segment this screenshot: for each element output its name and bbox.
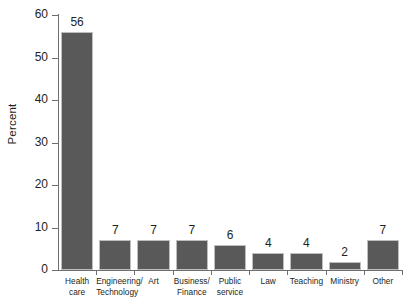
y-axis-tick	[52, 270, 58, 271]
bar-value-label: 7	[364, 223, 402, 237]
bar-value-label: 6	[211, 228, 249, 242]
bar-value-label: 7	[134, 223, 172, 237]
x-axis-tick	[211, 270, 212, 275]
bar[interactable]	[290, 253, 322, 270]
bar-value-label: 7	[173, 223, 211, 237]
bar-slot: 56	[58, 15, 96, 270]
x-axis-tick	[364, 270, 365, 275]
x-axis-tick	[287, 270, 288, 275]
bar[interactable]	[329, 262, 361, 271]
x-axis-tick	[96, 270, 97, 275]
x-axis-line	[58, 270, 402, 271]
bar-slot: 7	[134, 15, 172, 270]
bar-slot: 6	[211, 15, 249, 270]
bar-slot: 7	[364, 15, 402, 270]
bar-value-label: 7	[96, 223, 134, 237]
y-axis-title: Percent	[6, 74, 18, 174]
x-axis-tick	[326, 270, 327, 275]
bar[interactable]	[137, 240, 169, 270]
x-axis-tick	[134, 270, 135, 275]
x-axis-category-label: Law	[249, 276, 287, 287]
x-axis-tick	[402, 270, 403, 275]
bar-slot: 7	[173, 15, 211, 270]
bar[interactable]	[367, 240, 399, 270]
bar-chart: Percent 0102030405060 5677764427 Health …	[0, 0, 420, 308]
bar[interactable]	[99, 240, 131, 270]
x-axis-category-label: Health care	[58, 276, 96, 297]
y-axis-tick-label: 20	[35, 177, 48, 191]
bar-value-label: 4	[287, 236, 325, 250]
x-axis-tick	[249, 270, 250, 275]
x-axis-category-label: Art	[134, 276, 172, 287]
bar-value-label: 2	[326, 245, 364, 259]
bar-slot: 2	[326, 15, 364, 270]
bar-slot: 7	[96, 15, 134, 270]
y-axis-tick-label: 40	[35, 92, 48, 106]
x-axis-category-label: Teaching	[287, 276, 325, 287]
bar-value-label: 4	[249, 236, 287, 250]
y-axis-tick-label: 50	[35, 50, 48, 64]
x-axis-category-label: Engineering/ Technology	[96, 276, 134, 297]
bar-slot: 4	[287, 15, 325, 270]
x-axis-category-label: Ministry	[326, 276, 364, 287]
bar[interactable]	[61, 32, 93, 270]
bar-value-label: 56	[58, 15, 96, 29]
x-axis-category-label: Other	[364, 276, 402, 287]
bar-slot: 4	[249, 15, 287, 270]
bar[interactable]	[214, 245, 246, 271]
bar[interactable]	[176, 240, 208, 270]
bar-series: 5677764427	[58, 15, 402, 270]
y-axis-tick-label: 10	[35, 220, 48, 234]
x-axis-tick	[173, 270, 174, 275]
x-axis-category-label: Public service	[211, 276, 249, 297]
y-axis-tick-label: 60	[35, 7, 48, 21]
y-axis-tick-label: 30	[35, 135, 48, 149]
x-axis-category-labels: Health careEngineering/ TechnologyArtBus…	[58, 276, 402, 306]
x-axis-category-label: Business/ Finance	[173, 276, 211, 297]
bar[interactable]	[252, 253, 284, 270]
y-axis-tick-label: 0	[41, 262, 48, 276]
